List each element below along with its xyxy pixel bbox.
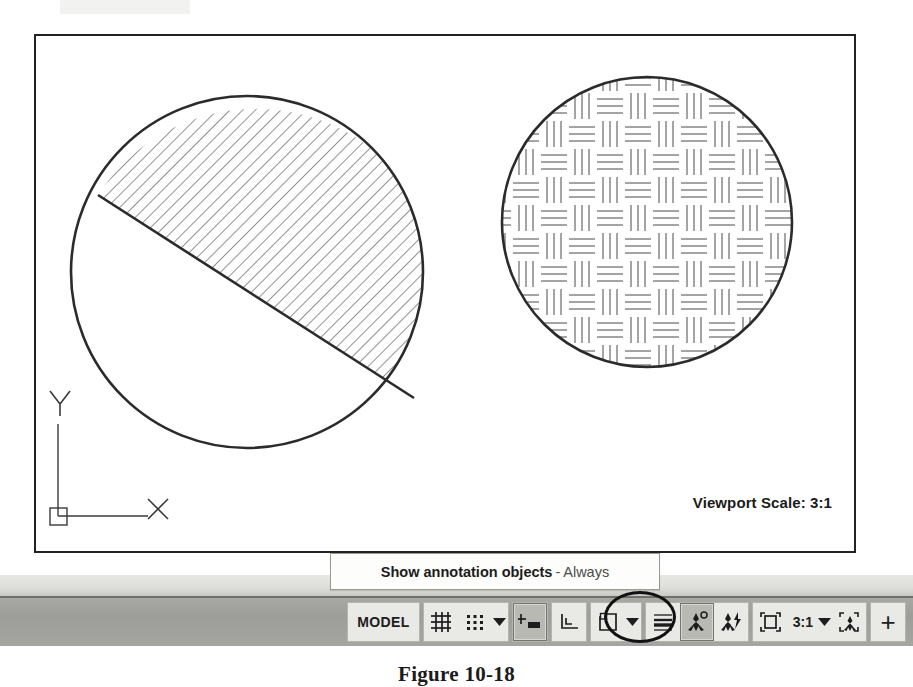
annotation-scale-dropdown[interactable]: 3:1 <box>787 603 816 641</box>
hatched-circle-right <box>496 71 800 375</box>
figure-caption: Figure 10-18 <box>0 662 913 687</box>
chevron-down-icon <box>626 617 639 627</box>
annotation-visibility-tooltip: Show annotation objects - Always <box>330 553 660 590</box>
viewport-frame[interactable]: Viewport Scale: 3:1 <box>34 34 856 553</box>
ucs-x-label <box>148 499 168 519</box>
annotation-group[interactable] <box>645 602 749 642</box>
customization-button[interactable]: + <box>871 603 905 641</box>
chevron-down-icon <box>493 617 506 627</box>
snap-dots-icon <box>464 611 486 633</box>
plus-icon: + <box>880 609 895 635</box>
dynamic-input-group[interactable] <box>512 602 548 642</box>
polar-tracking-toggle[interactable] <box>591 603 625 641</box>
polar-tracking-icon <box>596 611 620 633</box>
statusbar[interactable]: MODEL <box>0 596 913 646</box>
grid-icon <box>429 610 453 634</box>
lineweight-icon <box>652 611 674 633</box>
annotation-visibility-icon <box>685 610 709 634</box>
viewport-scale-label: Viewport Scale: 3:1 <box>693 494 832 511</box>
ucs-y-label <box>50 391 70 416</box>
grid-display-toggle[interactable] <box>424 603 458 641</box>
dynamic-input-toggle[interactable] <box>513 603 547 641</box>
polar-tracking-dropdown[interactable] <box>625 603 641 641</box>
ortho-group[interactable] <box>551 602 587 642</box>
viewport-group[interactable]: 3:1 <box>752 602 867 642</box>
dynamic-input-icon <box>518 611 542 633</box>
autoscale-annotation-icon <box>719 610 743 634</box>
polar-tracking-group[interactable] <box>590 602 642 642</box>
annotation-scale-icon <box>837 610 861 634</box>
drawing-canvas[interactable]: Viewport Scale: 3:1 <box>0 0 913 565</box>
grid-snap-group[interactable] <box>423 602 509 642</box>
lineweight-display-toggle[interactable] <box>646 603 680 641</box>
hatched-circle-left <box>71 96 423 448</box>
customization-group[interactable]: + <box>870 602 906 642</box>
snap-settings-dropdown[interactable] <box>492 603 508 641</box>
tooltip-separator: - <box>555 564 560 580</box>
annotation-scale-icon-button[interactable] <box>832 603 866 641</box>
ortho-mode-toggle[interactable] <box>552 603 586 641</box>
ortho-icon <box>557 611 581 633</box>
space-toggle-group[interactable]: MODEL <box>347 602 420 642</box>
viewport-frame-icon <box>758 611 782 633</box>
annotation-visibility-toggle[interactable] <box>680 603 714 641</box>
model-space-toggle[interactable]: MODEL <box>348 603 419 641</box>
annotation-scale-caret[interactable] <box>816 603 832 641</box>
viewport-maximize-toggle[interactable] <box>753 603 787 641</box>
chevron-down-icon <box>818 617 831 627</box>
scan-artifact <box>60 0 190 14</box>
drawing-geometry <box>36 36 854 551</box>
snap-mode-toggle[interactable] <box>458 603 492 641</box>
autoscale-annotations-toggle[interactable] <box>714 603 748 641</box>
tooltip-value: Always <box>563 564 609 580</box>
tooltip-title: Show annotation objects <box>381 564 553 580</box>
